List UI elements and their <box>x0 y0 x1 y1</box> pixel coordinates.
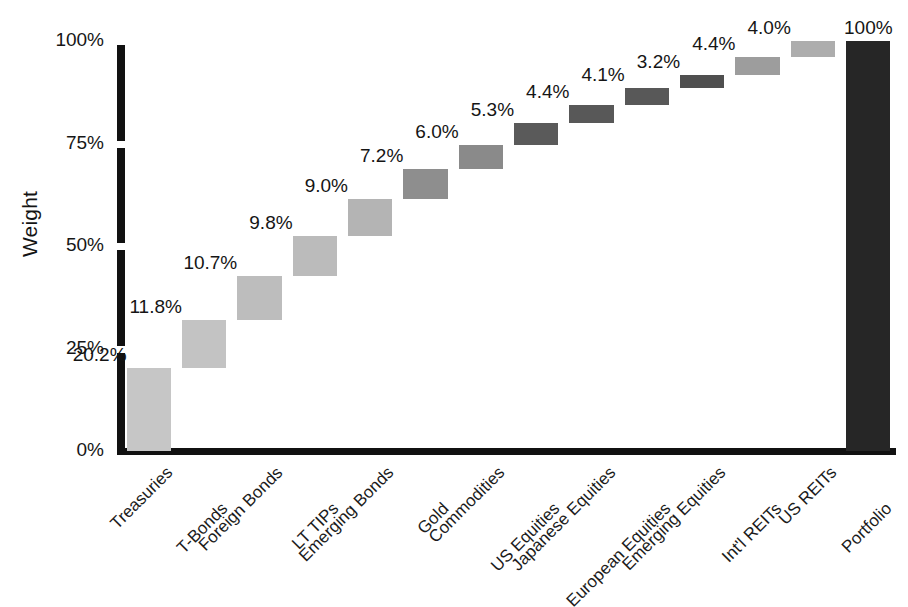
bar <box>237 276 281 320</box>
bar-value-label: 4.4% <box>673 33 735 55</box>
bar-value-label: 5.3% <box>452 99 514 121</box>
bar <box>680 75 724 88</box>
bar <box>735 57 779 75</box>
y-tick-gap <box>115 243 127 250</box>
bar-value-label: 4.1% <box>563 64 625 86</box>
y-tick-label: 75% <box>42 132 104 154</box>
y-tick-gap <box>115 38 127 45</box>
bar-value-label: 100% <box>842 17 894 39</box>
bar <box>625 88 669 105</box>
y-tick-label: 50% <box>42 234 104 256</box>
y-axis-title: Weight <box>18 164 42 284</box>
bar <box>459 145 503 170</box>
bar <box>791 41 835 57</box>
bar <box>293 236 337 276</box>
bar-value-label: 9.8% <box>231 212 293 234</box>
waterfall-chart: Weight 0%25%50%75%100% 20.2%11.8%10.7%9.… <box>0 0 908 607</box>
bar-value-label: 6.0% <box>397 121 459 143</box>
bar <box>403 169 447 199</box>
y-tick-gap <box>115 141 127 148</box>
y-tick-label: 100% <box>42 29 104 51</box>
bar-value-label: 11.8% <box>120 296 182 318</box>
bar <box>127 368 171 451</box>
bar-value-label: 3.2% <box>618 51 680 73</box>
bar-value-label: 9.0% <box>286 175 348 197</box>
bar-value-label: 10.7% <box>175 252 237 274</box>
bar-value-label: 7.2% <box>341 145 403 167</box>
bar <box>182 320 226 368</box>
bar <box>514 123 558 145</box>
bar <box>569 105 613 123</box>
y-tick-label: 0% <box>42 439 104 461</box>
bar <box>348 199 392 236</box>
bar-value-label: 20.2% <box>65 344 127 366</box>
bar <box>846 41 890 451</box>
x-axis-line <box>117 448 896 455</box>
bar-value-label: 4.0% <box>729 17 791 39</box>
bar-value-label: 4.4% <box>507 81 569 103</box>
